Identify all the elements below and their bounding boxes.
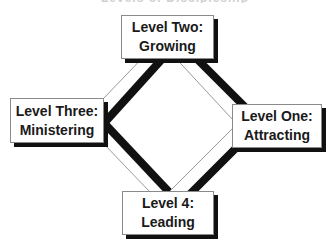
- level-four-label: Leading: [141, 213, 195, 232]
- level-four-box: Level 4: Leading: [122, 191, 214, 235]
- level-two-label: Growing: [139, 37, 196, 56]
- level-one-box: Level One: Attracting: [232, 104, 322, 148]
- connector-three-four-inner: [106, 125, 169, 192]
- level-two-title: Level Two:: [132, 18, 203, 37]
- level-three-title: Level Three:: [16, 102, 98, 121]
- level-one-label: Attracting: [244, 126, 310, 145]
- level-two-box: Level Two: Growing: [121, 15, 214, 59]
- level-four-title: Level 4:: [142, 194, 194, 213]
- level-one-title: Level One:: [241, 107, 313, 126]
- level-three-label: Ministering: [20, 121, 95, 140]
- level-three-box: Level Three: Ministering: [10, 98, 104, 143]
